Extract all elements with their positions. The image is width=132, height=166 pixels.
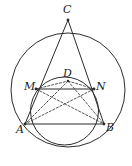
geometry-figure: C M D N A B [0, 0, 132, 166]
point-label-D: D [63, 68, 72, 79]
vertex-point-C [67, 19, 70, 22]
point-label-M: M [24, 81, 35, 92]
point-label-A: A [16, 124, 24, 135]
geometry-canvas [0, 0, 132, 166]
segment-CA [25, 20, 68, 124]
vertex-point-D [67, 80, 69, 82]
vertex-point-N [93, 88, 96, 91]
vertex-point-B [103, 123, 106, 126]
vertex-point-A [24, 123, 27, 126]
point-label-C: C [63, 4, 71, 15]
point-label-N: N [96, 81, 106, 92]
point-label-B: B [106, 122, 114, 133]
